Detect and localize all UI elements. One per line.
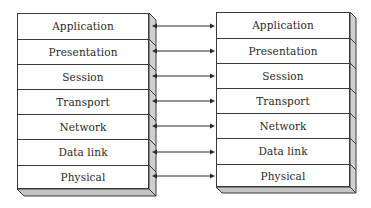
osi-diagram: Application Presentation Session Transpo… bbox=[0, 0, 371, 208]
peer-arrows bbox=[0, 0, 371, 208]
bidirectional-arrow-icon bbox=[152, 24, 215, 29]
bidirectional-arrow-icon bbox=[152, 49, 215, 54]
bidirectional-arrow-icon bbox=[152, 150, 215, 155]
bidirectional-arrow-icon bbox=[152, 99, 215, 104]
bidirectional-arrow-icon bbox=[152, 174, 215, 179]
bidirectional-arrow-icon bbox=[152, 124, 215, 129]
bidirectional-arrow-icon bbox=[152, 74, 215, 79]
